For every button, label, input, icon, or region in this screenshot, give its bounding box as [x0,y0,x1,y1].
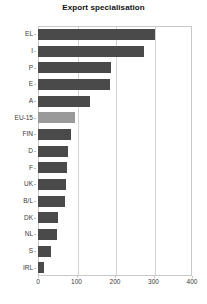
category-label-dk: DK [24,214,33,222]
bar-irl [38,262,44,273]
x-tick-label-100: 100 [71,278,82,286]
chart-title: Export specialisation [0,3,207,13]
bar-row [38,46,192,57]
bar-b-l [38,196,65,207]
bar-row [38,79,192,90]
bar-row [38,62,192,73]
category-label-e: E [29,80,33,88]
x-tick-mark-300 [154,276,155,278]
x-tick-label-300: 300 [148,278,159,286]
x-tick-mark-100 [77,276,78,278]
bar-d [38,146,68,157]
category-label-p: P [29,64,33,72]
bar-row [38,129,192,140]
bar-s [38,246,51,257]
category-tick [34,234,36,235]
category-label-fin: FIN [23,130,33,138]
x-tick-mark-0 [38,276,39,278]
export-specialisation-chart: Export specialisation ELIPEAEU-15FINDFUK… [0,0,207,304]
category-tick [34,84,36,85]
category-label-i: I [31,47,33,55]
bar-f [38,162,67,173]
category-tick [34,268,36,269]
category-tick [34,251,36,252]
category-tick [34,101,36,102]
bar-p [38,62,111,73]
category-tick [34,184,36,185]
category-tick [34,34,36,35]
bar-row [38,112,192,123]
bar-fin [38,129,71,140]
category-label-d: D [28,147,33,155]
category-label-s: S [29,247,33,255]
bar-row [38,96,192,107]
bar-i [38,46,144,57]
bar-row [38,196,192,207]
bar-nl [38,229,57,240]
bar-dk [38,212,58,223]
category-tick [34,201,36,202]
bar-row [38,212,192,223]
bar-row [38,229,192,240]
category-tick [34,218,36,219]
category-tick [34,51,36,52]
bar-e [38,79,110,90]
category-label-f: F [29,164,33,172]
category-label-irl: IRL [23,264,33,272]
x-tick-label-200: 200 [110,278,121,286]
category-axis: ELIPEAEU-15FINDFUKB/LDKNLSIRL [0,26,36,276]
bar-row [38,179,192,190]
bar-el [38,29,155,40]
category-label-b-l: B/L [23,197,33,205]
category-label-eu-15: EU-15 [15,114,33,122]
category-tick [34,151,36,152]
category-tick [34,68,36,69]
category-tick [34,134,36,135]
x-tick-label-400: 400 [187,278,198,286]
bar-row [38,146,192,157]
x-tick-label-0: 0 [36,278,40,286]
bar-row [38,29,192,40]
bar-row [38,262,192,273]
category-tick [34,118,36,119]
bar-uk [38,179,66,190]
bar-row [38,246,192,257]
x-tick-mark-400 [192,276,193,278]
category-label-nl: NL [25,230,33,238]
value-axis: 0100200300400 [0,278,207,292]
category-label-uk: UK [24,180,33,188]
bar-eu-15 [38,112,75,123]
category-tick [34,168,36,169]
bar-a [38,96,90,107]
bars-layer [38,26,192,276]
x-tick-mark-200 [115,276,116,278]
bar-row [38,162,192,173]
category-label-el: EL [25,30,33,38]
category-label-a: A [29,97,33,105]
